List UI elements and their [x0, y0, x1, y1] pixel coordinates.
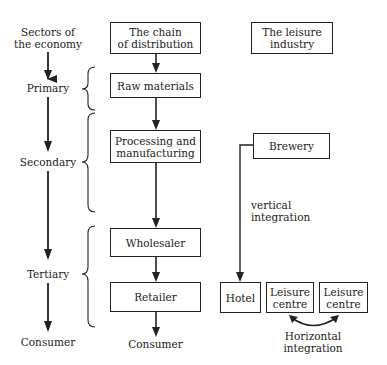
leisure-heading-line2: industry [262, 38, 322, 50]
leisure-heading-line1: The leisure [262, 26, 322, 38]
brewery-label: Brewery [269, 140, 314, 152]
leisure-industry-box: The leisure industry [251, 22, 333, 54]
vertical-integration-line1: vertical [251, 199, 310, 211]
vertical-integration-line2: integration [251, 211, 310, 223]
horizontal-integration-line1: Horizontal [273, 330, 353, 342]
sector-secondary: Secondary [8, 156, 88, 168]
processing-label-line1: Processing and [115, 135, 196, 147]
raw-materials-box: Raw materials [110, 73, 201, 98]
chain-consumer: Consumer [110, 338, 201, 350]
horizontal-integration-line2: integration [273, 342, 353, 354]
leisure-centre-box-2: Leisure centre [319, 282, 368, 313]
processing-label-line2: manufacturing [115, 147, 196, 159]
sectors-heading-line2: the economy [8, 38, 88, 50]
retailer-box: Retailer [110, 282, 201, 312]
sector-primary: Primary [8, 82, 88, 94]
retailer-label: Retailer [134, 291, 177, 303]
sector-braces [82, 67, 95, 327]
chain-of-distribution-box: The chain of distribution [110, 22, 201, 54]
raw-materials-label: Raw materials [117, 80, 194, 92]
horizontal-integration-arrow [292, 318, 336, 326]
leisure-centre-2-line1: Leisure [324, 286, 364, 298]
leisure-centre-1-line2: centre [270, 298, 310, 310]
chain-heading-line2: of distribution [118, 38, 194, 50]
wholesaler-label: Wholesaler [126, 237, 186, 249]
leisure-centre-1-line1: Leisure [270, 286, 310, 298]
sectors-heading: Sectors of the economy [8, 26, 88, 50]
chain-heading-line1: The chain [118, 26, 194, 38]
leisure-centre-box-1: Leisure centre [266, 282, 314, 313]
sectors-heading-line1: Sectors of [8, 26, 88, 38]
sector-tertiary: Tertiary [8, 268, 88, 280]
leisure-centre-2-line2: centre [324, 298, 364, 310]
sector-consumer: Consumer [8, 336, 88, 348]
brewery-box: Brewery [253, 133, 330, 159]
hotel-box: Hotel [220, 282, 261, 313]
horizontal-integration-label: Horizontal integration [273, 330, 353, 354]
processing-box: Processing and manufacturing [110, 130, 201, 163]
hotel-label: Hotel [226, 292, 255, 304]
vertical-integration-label: vertical integration [251, 199, 310, 223]
wholesaler-box: Wholesaler [110, 228, 201, 257]
